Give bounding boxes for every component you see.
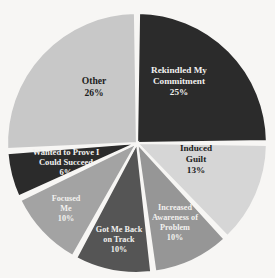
pie-slice-value: 26% [84,87,103,98]
pie-slice-name-line: Induced [180,143,212,153]
pie-slice-name-line: Me [60,204,72,213]
pie-slice-value: 10% [167,232,183,241]
pie-slice-name-line: Problem [160,223,190,232]
pie-slice-value: 6% [60,167,73,177]
pie-chart: Rekindled MyCommitment25%InducedGuilt13%… [0,0,275,278]
pie-slice-name-line: on Track [103,235,135,244]
pie-slice-name-line: Could Succeed [39,157,93,167]
pie-slice-name-line: Guilt [186,154,207,164]
pie-slice-value: 10% [58,214,74,223]
pie-slice-name-line: Wanted to Prove I [33,147,101,157]
pie-slice-name-line: Increased [158,203,192,212]
pie-slice-label: Other26% [82,76,107,98]
pie-slice-name-line: Other [82,76,107,87]
pie-slice-value: 10% [111,245,127,254]
pie-slice-value: 13% [187,165,205,175]
pie-slice-name-line: Commitment [153,76,206,86]
pie-slice-name-line: Got Me Back [96,225,143,234]
pie-chart-svg: Rekindled MyCommitment25%InducedGuilt13%… [0,0,275,278]
pie-slice[interactable] [7,13,137,149]
pie-slice-name-line: Focused [52,194,81,203]
pie-slice-name-line: Rekindled My [151,65,207,75]
pie-slice-value: 25% [170,87,188,97]
pie-slice-name-line: Awareness of [152,213,198,222]
